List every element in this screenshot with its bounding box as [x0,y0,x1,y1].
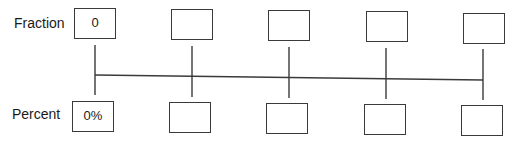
fraction-box-1[interactable]: 0 [74,8,116,39]
fraction-box-4[interactable] [366,11,408,42]
fraction-box-3[interactable] [268,10,310,41]
percent-box-5[interactable] [461,105,503,136]
percent-box-3[interactable] [266,103,308,134]
percent-box-1[interactable]: 0% [72,101,114,132]
percent-box-2[interactable] [169,102,211,133]
fraction-box-2[interactable] [171,9,213,40]
percent-box-4[interactable] [364,104,406,135]
fraction-box-5[interactable] [463,13,505,44]
